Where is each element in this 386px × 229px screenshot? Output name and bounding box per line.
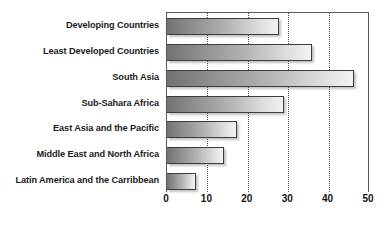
bar — [167, 147, 224, 164]
x-tick-label: 0 — [163, 193, 169, 204]
x-tick-label: 20 — [241, 193, 252, 204]
category-label: Sub-Sahara Africa — [81, 95, 159, 112]
bar — [167, 18, 279, 35]
x-tick-label: 30 — [282, 193, 293, 204]
category-label: Middle East and North Africa — [37, 146, 159, 163]
x-tick-label: 40 — [322, 193, 333, 204]
category-label: Developing Countries — [66, 17, 159, 34]
category-label: South Asia — [112, 69, 159, 86]
x-tick-label: 10 — [201, 193, 212, 204]
category-label: Least Developed Countries — [43, 43, 159, 60]
gridline-30 — [288, 13, 289, 192]
plot-area — [166, 12, 369, 192]
bar — [167, 173, 196, 190]
bar-chart: Developing CountriesLeast Developed Coun… — [0, 0, 386, 229]
bar — [167, 121, 237, 138]
bar — [167, 96, 284, 113]
category-axis: Developing CountriesLeast Developed Coun… — [0, 12, 163, 192]
bar — [167, 70, 354, 87]
x-tick-label: 50 — [362, 193, 373, 204]
bar — [167, 44, 312, 61]
gridline-40 — [329, 13, 330, 192]
category-label: Latin America and the Carribbean — [16, 172, 160, 189]
category-label: East Asia and the Pacific — [53, 120, 159, 137]
value-axis: 01020304050 — [166, 193, 369, 213]
